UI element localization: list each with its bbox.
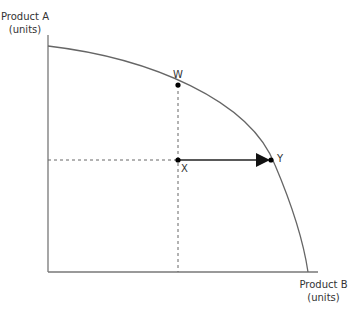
point-w xyxy=(175,82,180,87)
point-y-label: Y xyxy=(277,153,283,164)
y-axis-label-line2: (units) xyxy=(0,23,50,36)
y-axis-label-line1: Product A xyxy=(0,10,50,23)
point-x xyxy=(175,157,180,162)
x-axis-label-line2: (units) xyxy=(296,291,351,304)
y-axis-label: Product A (units) xyxy=(0,10,50,36)
chart-canvas xyxy=(0,0,351,318)
x-axis-label-line1: Product B xyxy=(296,278,351,291)
point-y xyxy=(268,157,273,162)
arrow-head-icon xyxy=(256,153,270,167)
point-x-label: X xyxy=(181,163,188,174)
x-axis-label: Product B (units) xyxy=(296,278,351,304)
point-w-label: W xyxy=(173,69,183,80)
